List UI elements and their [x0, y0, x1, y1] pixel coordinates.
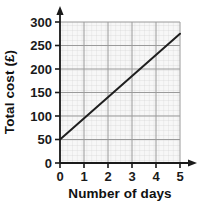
y-tick-label: 0 — [45, 156, 52, 171]
x-tick-label: 3 — [128, 169, 135, 184]
y-tick-label: 300 — [30, 15, 52, 30]
y-tick-label: 200 — [30, 62, 52, 77]
x-tick-label: 0 — [56, 169, 63, 184]
x-axis-title: Number of days — [68, 186, 171, 201]
x-axis-tick-labels: 0 1 2 3 4 5 — [56, 169, 183, 184]
x-tick-label: 5 — [176, 169, 183, 184]
y-axis-arrow-icon — [56, 6, 63, 15]
y-axis-title: Total cost (£) — [2, 50, 17, 134]
y-axis-tick-labels: 0 50 100 150 200 250 300 — [30, 15, 52, 171]
line-chart: 0 50 100 150 200 250 300 0 1 2 3 4 5 Num… — [0, 0, 201, 204]
x-axis-arrow-icon — [188, 159, 197, 166]
y-tick-label: 50 — [38, 132, 52, 147]
y-tick-label: 150 — [30, 85, 52, 100]
chart-canvas: 0 50 100 150 200 250 300 0 1 2 3 4 5 Num… — [0, 0, 201, 204]
x-tick-label: 4 — [152, 169, 160, 184]
y-tick-label: 100 — [30, 109, 52, 124]
y-tick-label: 250 — [30, 38, 52, 53]
x-tick-label: 1 — [80, 169, 87, 184]
x-tick-label: 2 — [104, 169, 111, 184]
